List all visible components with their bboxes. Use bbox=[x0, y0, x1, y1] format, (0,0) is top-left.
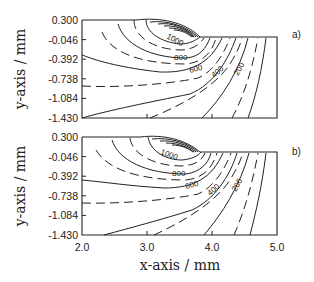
contour-figure: 0.300 -0.046 -0.392 -0.738 -1.084 -1.430… bbox=[0, 0, 314, 282]
panel-a-ytick-3: -0.738 bbox=[48, 73, 78, 85]
panel-b-clabel-800: 800 bbox=[172, 169, 186, 178]
x-axis: 2.0 3.0 4.0 5.0 x-axis / mm bbox=[75, 241, 285, 273]
panel-b: 0.300 -0.046 -0.392 -0.738 -1.084 -1.430… bbox=[12, 131, 301, 241]
panel-a-clabel-200: 200 bbox=[232, 60, 247, 77]
panel-a-clabel-400: 400 bbox=[210, 64, 226, 80]
panel-b-ytick-2: -0.392 bbox=[48, 170, 78, 182]
x-axis-label: x-axis / mm bbox=[140, 257, 220, 273]
panel-a-clabel-1000: 1000 bbox=[165, 32, 185, 49]
panel-b-label: b) bbox=[292, 146, 301, 157]
xtick-2: 4.0 bbox=[205, 241, 220, 253]
panel-b-frame bbox=[82, 137, 277, 235]
panel-b-clabel-600: 600 bbox=[184, 179, 200, 191]
panel-b-clabel-1000: 1000 bbox=[159, 147, 179, 162]
panel-b-ytick-1: -0.046 bbox=[48, 151, 78, 163]
panel-a-frame bbox=[82, 20, 277, 118]
panel-b-ytick-5: -1.430 bbox=[48, 229, 78, 241]
panel-a-ytick-0: 0.300 bbox=[52, 14, 78, 26]
xtick-3: 5.0 bbox=[270, 241, 285, 253]
panel-a-label: a) bbox=[292, 29, 301, 40]
panel-b-clabel-200: 200 bbox=[230, 176, 245, 193]
panel-b-ytick-4: -1.084 bbox=[48, 209, 78, 221]
panel-b-ylabel: y-axis / mm bbox=[12, 146, 28, 228]
panel-a-ytick-1: -0.046 bbox=[48, 34, 78, 46]
panel-a: 0.300 -0.046 -0.392 -0.738 -1.084 -1.430… bbox=[12, 14, 301, 124]
panel-a-ylabel: y-axis / mm bbox=[12, 29, 28, 111]
panel-a-ytick-5: -1.430 bbox=[48, 112, 78, 124]
xtick-1: 3.0 bbox=[140, 241, 155, 253]
panel-a-ytick-2: -0.392 bbox=[48, 53, 78, 65]
panel-a-ytick-4: -1.084 bbox=[48, 92, 78, 104]
panel-a-clabel-800: 800 bbox=[174, 53, 188, 62]
panel-b-clabel-400: 400 bbox=[206, 182, 222, 198]
panel-b-ytick-3: -0.738 bbox=[48, 190, 78, 202]
panel-b-ytick-0: 0.300 bbox=[52, 131, 78, 143]
xtick-0: 2.0 bbox=[75, 241, 90, 253]
panel-a-clabel-600: 600 bbox=[188, 63, 204, 75]
